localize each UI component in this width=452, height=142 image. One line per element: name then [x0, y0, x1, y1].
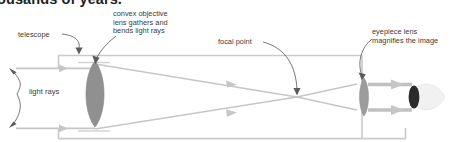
arrowhead-telescope [75, 48, 82, 55]
pointer-telescope [62, 34, 79, 49]
telescope-diagram: ousands of years. telescope convex objec… [0, 0, 452, 142]
eye-pupil [409, 86, 420, 109]
eyepiece-lens-body [360, 78, 369, 116]
page-title: ousands of years. [0, 0, 122, 7]
light-rays-brace [9, 68, 20, 128]
objective-lens [86, 61, 104, 127]
pointer-focal-point [263, 42, 297, 90]
incoming-light-rays [16, 65, 95, 133]
label-eyepiece-line-2: magnifies the image [372, 37, 438, 46]
arrowhead-ray-bottom-in [59, 125, 68, 133]
arrowhead-exit-top [391, 80, 404, 90]
refracted-rays [95, 64, 357, 129]
pointer-objective [96, 36, 116, 60]
label-light-rays: light rays [29, 88, 59, 97]
label-focal-point: focal point [218, 38, 252, 47]
exit-rays [368, 80, 412, 116]
arrowhead-brace-bottom [9, 121, 17, 128]
label-telescope: telescope [18, 31, 50, 40]
refracted-ray-upper [95, 64, 357, 110]
eye [409, 84, 445, 110]
eyepiece-lens [360, 78, 369, 116]
arrowhead-exit-bottom [391, 105, 404, 115]
refracted-ray-lower [95, 84, 357, 129]
brace-curve [12, 70, 20, 126]
arrowhead-focal-point [293, 88, 300, 96]
diagram-canvas [0, 0, 452, 142]
arrowhead-refracted-upper [226, 109, 237, 117]
label-objective-line-3: bends light rays [113, 27, 168, 36]
label-eyepiece-lens: eyepiece lens magnifies the image [372, 28, 438, 45]
label-objective-lens: convex objective lens gathers and bends … [113, 10, 168, 36]
objective-lens-body [86, 61, 104, 127]
arrowhead-brace-top [9, 68, 17, 75]
arrowhead-ray-top-in [59, 65, 68, 73]
